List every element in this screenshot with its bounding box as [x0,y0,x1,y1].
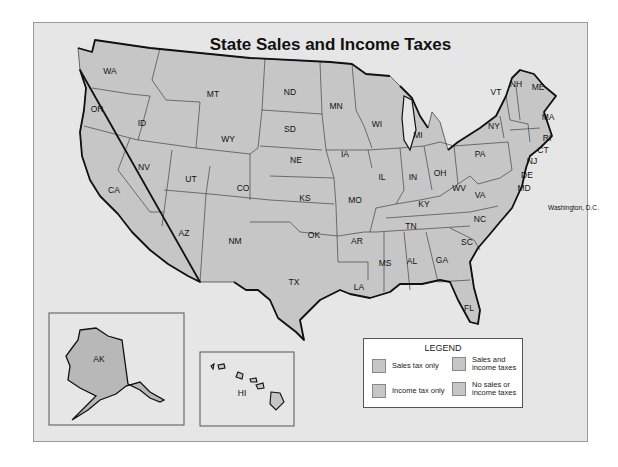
state-label-co: CO [237,183,250,193]
state-label-wi: WI [372,119,382,129]
state-label-nm: NM [228,236,241,246]
state-label-ms: MS [379,258,392,268]
state-label-pa: PA [475,149,486,159]
state-label-ks: KS [299,193,311,203]
hawaii-inset [200,352,294,426]
state-label-washingtondc: Washington, D.C. [548,204,599,212]
state-label-az: AZ [179,228,190,238]
state-label-va: VA [475,190,486,200]
legend-label-2: income taxes [472,388,516,397]
state-label-ne: NE [290,155,302,165]
state-label-ct: CT [537,145,548,155]
state-label-mo: MO [348,195,362,205]
state-label-ar: AR [351,236,363,246]
state-label-md: MD [517,183,530,193]
state-label-il: IL [378,172,385,182]
legend-item-no-taxes: No sales orincome taxes [452,381,516,397]
state-label-ak: AK [93,354,105,364]
state-label-mt: MT [207,89,219,99]
state-label-mn: MN [329,101,342,111]
state-label-ut: UT [185,174,196,184]
state-label-wy: WY [221,134,235,144]
state-label-id: ID [138,118,147,128]
legend-item-sales-tax-only: Sales tax only [372,359,439,373]
state-label-nv: NV [138,162,150,172]
legend-item-income-tax-only: Income tax only [372,384,445,398]
state-label-me: ME [532,82,545,92]
state-label-de: DE [521,170,533,180]
state-label-hi: HI [238,388,247,398]
state-label-al: AL [407,256,418,266]
state-label-sd: SD [284,124,296,134]
legend-label-2: income taxes [472,363,516,372]
state-label-in: IN [409,172,418,182]
state-label-wa: WA [103,66,117,76]
state-label-ma: MA [542,112,555,122]
state-label-tn: TN [405,221,416,231]
legend-swatch [372,359,386,373]
state-label-ia: IA [341,149,349,159]
state-label-ca: CA [108,185,120,195]
state-label-tx: TX [289,277,300,287]
state-label-vt: VT [491,87,502,97]
legend-label: Income tax only [392,387,445,395]
state-label-ok: OK [308,230,321,240]
state-label-ny: NY [488,121,500,131]
state-label-nj: NJ [527,156,537,166]
state-label-sc: SC [461,237,473,247]
state-label-nh: NH [510,79,522,89]
legend-item-sales-and-income: Sales andincome taxes [452,356,516,372]
legend: LEGEND Sales tax only Sales andincome ta… [363,338,523,408]
state-label-ri: RI [543,133,552,143]
state-label-nc: NC [474,214,486,224]
state-label-ky: KY [418,199,430,209]
state-label-nd: ND [284,87,296,97]
state-label-oh: OH [434,168,447,178]
legend-swatch [452,357,466,371]
us-map: WAORCAIDNVMTWYUTCOAZNMNDSDNEKSOKTXMNIAMO… [0,0,618,467]
legend-swatch [372,384,386,398]
legend-label: Sales tax only [392,362,439,370]
legend-title: LEGEND [364,343,522,353]
state-label-ga: GA [436,255,449,265]
state-label-or: OR [91,104,104,114]
state-label-wv: WV [452,183,466,193]
state-label-la: LA [354,282,365,292]
state-label-mi: MI [413,130,422,140]
legend-swatch [452,382,466,396]
state-label-fl: FL [464,303,474,313]
